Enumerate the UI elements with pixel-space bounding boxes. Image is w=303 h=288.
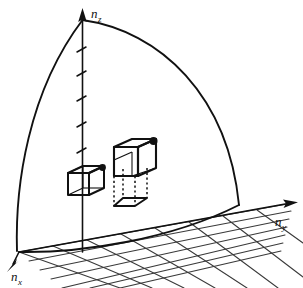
- axis-label-x-sub: x: [17, 277, 22, 287]
- figure-root: nz ny nx: [0, 0, 303, 288]
- axis-label-z-base: n: [91, 6, 98, 21]
- n-space-diagram: nz ny nx: [0, 0, 303, 288]
- axis-label-z-sub: z: [97, 14, 102, 24]
- axis-label-y-sub: y: [281, 222, 286, 232]
- axis-label-y-base: n: [275, 214, 282, 229]
- small-cube-state-dot-icon: [99, 164, 106, 171]
- large-cube-state-dot-icon: [150, 137, 158, 145]
- axis-label-x-base: n: [11, 269, 18, 284]
